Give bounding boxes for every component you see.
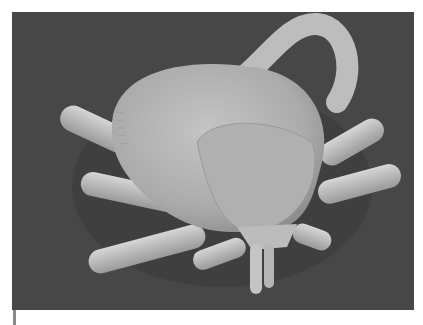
edge-bar	[13, 310, 16, 325]
tick-illustration	[12, 12, 414, 310]
sem-tick-photo	[12, 12, 414, 310]
